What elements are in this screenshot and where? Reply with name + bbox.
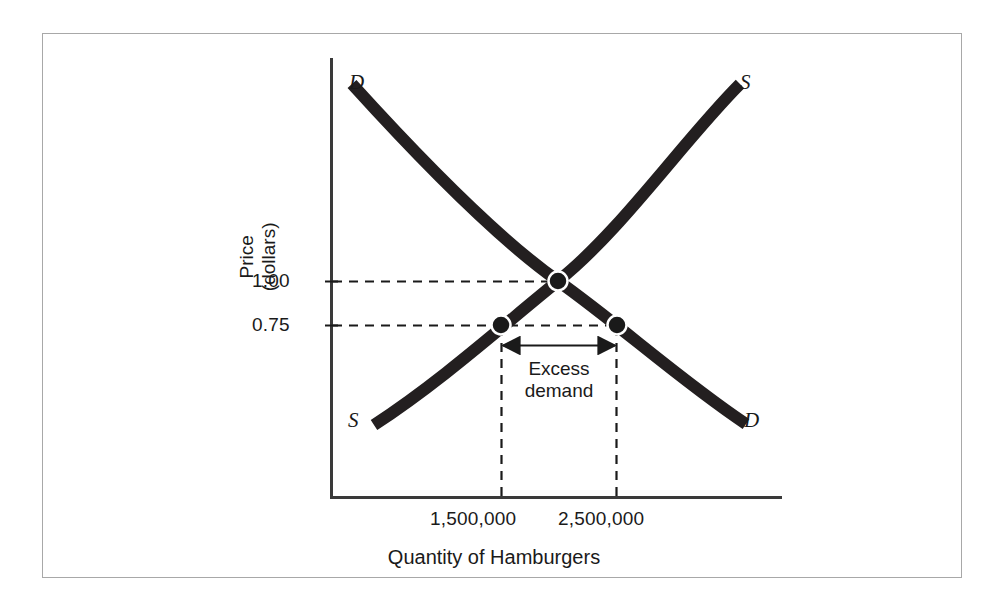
- supply-curve-label-top: S: [740, 70, 751, 95]
- x-axis-tick-label-1: 1,500,000: [430, 508, 516, 530]
- demand-curve-label-top: D: [349, 70, 364, 95]
- figure-page: 1.00 0.75 1,500,000 2,500,000 Price (dol…: [0, 0, 988, 614]
- x-axis-tick-label-2: 2,500,000: [558, 508, 644, 530]
- marker-demand-at-075: [608, 316, 627, 335]
- marker-equilibrium: [549, 272, 568, 291]
- excess-demand-annotation: Excess demand: [501, 358, 617, 403]
- supply-curve-label-bottom: S: [348, 408, 359, 433]
- x-axis-title: Quantity of Hamburgers: [0, 546, 988, 569]
- marker-supply-at-075: [492, 316, 511, 335]
- demand-curve-label-bottom: D: [744, 408, 759, 433]
- y-axis-title: Price (dollars): [236, 177, 280, 337]
